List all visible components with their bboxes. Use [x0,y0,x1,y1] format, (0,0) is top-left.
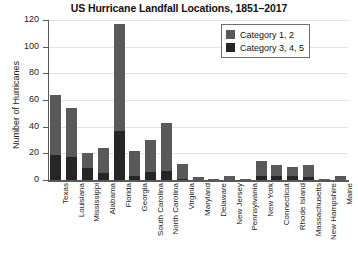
legend-item-category-1-2: Category 1, 2 [226,28,304,41]
y-axis-title: Number of Hurricanes [11,45,21,165]
y-tick-mark [43,100,48,101]
gridline [48,153,348,154]
x-tick-label: Rhode Island [297,183,308,230]
x-tick-label: Connecticut [281,183,292,225]
bar-segment-category-1-2[interactable] [287,167,298,176]
x-tick-label: Alabama [107,183,118,215]
hurricane-landfall-chart: US Hurricane Landfall Locations, 1851–20… [0,0,358,265]
x-tick-label: Pennsylvania [249,183,260,231]
y-tick-mark [43,180,48,181]
y-tick-mark [43,47,48,48]
legend-item-category-3-4-5: Category 3, 4, 5 [226,41,304,54]
bar-segment-category-1-2[interactable] [66,108,77,157]
bar-segment-category-1-2[interactable] [271,165,282,176]
gridline [48,100,348,101]
bar-segment-category-1-2[interactable] [129,151,140,176]
x-tick-label: New Hampshire [328,183,339,240]
gridline [48,127,348,128]
y-tick-label: 0 [9,175,39,184]
x-tick-label: Louisiana [76,183,87,217]
bar-segment-category-1-2[interactable] [177,164,188,179]
x-tick-label: Maine [344,183,355,205]
x-tick-label: Georgia [139,183,150,211]
x-tick-label: New Jersey [234,183,245,225]
bar-segment-category-1-2[interactable] [256,161,267,176]
x-axis-line [48,180,349,182]
bar-segment-category-1-2[interactable] [82,153,93,168]
y-tick-mark [43,73,48,74]
y-tick-label: 20 [9,148,39,157]
x-tick-label: Texas [60,183,71,204]
bar-segment-category-1-2[interactable] [161,123,172,171]
x-tick-label: Maryland [202,183,213,216]
bar-segment-category-1-2[interactable] [145,140,156,172]
legend-label-category-3-4-5: Category 3, 4, 5 [240,43,304,53]
x-tick-label: Delaware [218,183,229,217]
x-tick-label: North Carolina [170,183,181,235]
gridline [48,20,348,21]
x-tick-label: Mississippi [91,183,102,222]
bar-segment-category-3-4-5[interactable] [82,168,93,180]
bar-segment-category-3-4-5[interactable] [66,157,77,180]
y-tick-mark [43,127,48,128]
chart-title: US Hurricane Landfall Locations, 1851–20… [0,2,358,14]
legend-label-category-1-2: Category 1, 2 [240,30,294,40]
bar-segment-category-3-4-5[interactable] [114,131,125,180]
chart-legend: Category 1, 2 Category 3, 4, 5 [221,24,310,58]
x-tick-label: South Carolina [155,183,166,236]
y-tick-label: 100 [9,42,39,51]
legend-swatch-category-1-2 [226,30,235,39]
bar-segment-category-3-4-5[interactable] [161,171,172,180]
y-axis-line [48,20,49,181]
x-tick-label: Massachusetts [313,183,324,236]
bar-segment-category-3-4-5[interactable] [145,172,156,180]
y-tick-label: 80 [9,68,39,77]
y-tick-label: 120 [9,15,39,24]
x-tick-label: Virginia [186,183,197,210]
y-tick-mark [43,153,48,154]
y-tick-label: 60 [9,95,39,104]
bar-segment-category-1-2[interactable] [303,165,314,177]
bar-segment-category-1-2[interactable] [98,148,109,173]
x-tick-label: New York [265,183,276,217]
x-tick-label: Florida [123,183,134,207]
bar-segment-category-1-2[interactable] [50,95,61,155]
bar-segment-category-1-2[interactable] [114,24,125,131]
gridline [48,73,348,74]
y-tick-label: 40 [9,122,39,131]
legend-swatch-category-3-4-5 [226,43,235,52]
bar-segment-category-3-4-5[interactable] [98,173,109,180]
y-tick-mark [43,20,48,21]
bar-segment-category-3-4-5[interactable] [50,155,61,180]
